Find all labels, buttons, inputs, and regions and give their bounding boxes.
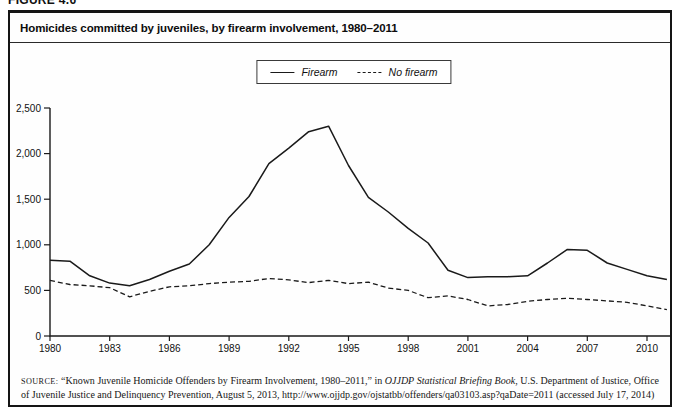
x-tick-label: 1980 [39, 343, 62, 354]
solid-line-icon [270, 72, 294, 73]
firearm-line [50, 126, 667, 286]
figure-panel: Homicides committed by juveniles, by fir… [8, 10, 672, 407]
y-tick-label: 1,500 [16, 194, 41, 205]
y-tick-label: 1,000 [16, 239, 41, 250]
x-tick-label: 2007 [576, 343, 599, 354]
source-text-pre: “Known Juvenile Homicide Offenders by Fi… [58, 375, 384, 386]
figure-title: Homicides committed by juveniles, by fir… [10, 13, 670, 43]
x-tick-label: 1986 [158, 343, 181, 354]
x-tick-label: 1989 [218, 343, 241, 354]
y-tick-label: 2,500 [16, 103, 41, 114]
source-book-title: OJJDP Statistical Briefing Book [385, 375, 515, 386]
y-tick-label: 2,000 [16, 148, 41, 159]
legend-label-no-firearm: No firearm [389, 66, 438, 78]
no-firearm-line [50, 279, 667, 310]
legend-label-firearm: Firearm [301, 66, 337, 78]
x-tick-label: 1983 [99, 343, 122, 354]
source-note: SOURCE: “Known Juvenile Homicide Offende… [10, 374, 670, 401]
figure-number-clipped: FIGURE 4.6 [8, 0, 208, 8]
x-tick-label: 2004 [516, 343, 539, 354]
x-tick-label: 2010 [636, 343, 659, 354]
x-tick-label: 1998 [397, 343, 420, 354]
axes [50, 108, 670, 336]
source-label: SOURCE: [21, 377, 58, 386]
dashed-line-icon [358, 72, 382, 73]
x-tick-label: 1995 [337, 343, 360, 354]
chart-legend: Firearm No firearm [256, 60, 451, 84]
y-tick-label: 0 [35, 331, 41, 342]
x-tick-label: 2001 [457, 343, 480, 354]
y-tick-label: 500 [24, 285, 41, 296]
legend-item-no-firearm: No firearm [358, 66, 438, 78]
x-tick-label: 1992 [278, 343, 301, 354]
figure-number-text: FIGURE 4.6 [8, 0, 208, 7]
legend-item-firearm: Firearm [270, 66, 337, 78]
line-chart: 05001,0001,5002,0002,5001980198319861989… [10, 93, 673, 361]
